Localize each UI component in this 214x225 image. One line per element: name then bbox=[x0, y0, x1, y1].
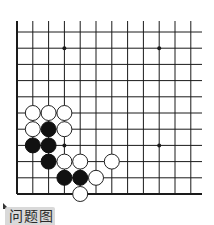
white-stone bbox=[89, 170, 104, 185]
stones bbox=[25, 106, 119, 202]
black-stone bbox=[41, 122, 56, 137]
black-stone bbox=[41, 154, 56, 169]
go-board bbox=[0, 0, 214, 205]
star-point bbox=[62, 143, 66, 147]
black-stone bbox=[41, 138, 56, 153]
white-stone bbox=[104, 154, 119, 169]
white-stone bbox=[73, 187, 88, 202]
black-stone bbox=[73, 170, 88, 185]
black-stone bbox=[25, 138, 40, 153]
white-stone bbox=[73, 154, 88, 169]
diagram-label: 问题图 bbox=[9, 208, 54, 224]
white-stone bbox=[57, 122, 72, 137]
star-point bbox=[157, 143, 161, 147]
star-point bbox=[157, 46, 161, 50]
white-stone bbox=[25, 122, 40, 137]
black-stone bbox=[57, 170, 72, 185]
white-stone bbox=[57, 106, 72, 121]
white-stone bbox=[25, 106, 40, 121]
white-stone bbox=[41, 106, 56, 121]
white-stone bbox=[57, 154, 72, 169]
star-point bbox=[62, 46, 66, 50]
